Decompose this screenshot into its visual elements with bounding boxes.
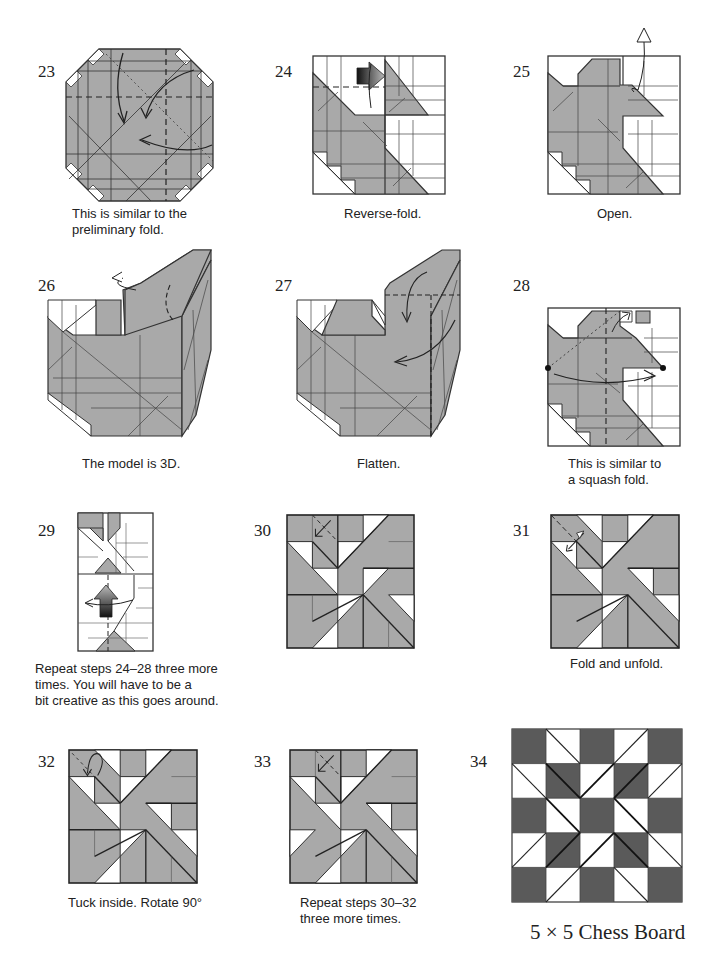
step-33-caption: Repeat steps 30–32 three more times.: [300, 895, 416, 927]
step-30-diagram: [287, 515, 414, 648]
step-number: 24: [275, 62, 292, 82]
step-28-diagram: [548, 308, 680, 446]
step-24-caption: Reverse-fold.: [344, 206, 421, 222]
step-24-diagram: [313, 56, 445, 194]
step-number: 23: [38, 62, 55, 82]
step-28-caption: This is similar to a squash fold.: [568, 456, 661, 488]
step-number: 32: [38, 752, 55, 772]
reference-dot-icon: [545, 365, 551, 371]
chess-board-diagram: [512, 729, 682, 902]
step-number: 33: [254, 752, 271, 772]
step-23-diagram: [66, 49, 213, 201]
step-number: 31: [513, 521, 530, 541]
step-number: 29: [38, 521, 55, 541]
open-arrow-icon: [637, 28, 651, 42]
step-25-caption: Open.: [597, 206, 632, 222]
step-26-diagram: [48, 250, 212, 446]
step-31-diagram: [551, 515, 679, 648]
step-29-caption: Repeat steps 24–28 three more times. You…: [35, 661, 219, 709]
step-33-diagram: [290, 750, 417, 883]
reference-dot-icon: [660, 365, 666, 371]
step-29-diagram: [78, 513, 153, 651]
step-number: 25: [513, 62, 530, 82]
step-23-caption: This is similar to the preliminary fold.: [72, 206, 212, 238]
chess-board-title: 5 × 5 Chess Board: [530, 920, 685, 945]
step-32-caption: Tuck inside. Rotate 90°: [68, 895, 202, 911]
step-number: 30: [254, 521, 271, 541]
step-number: 28: [513, 276, 530, 296]
step-25-diagram: [548, 56, 680, 194]
step-31-caption: Fold and unfold.: [570, 656, 663, 672]
step-number: 34: [470, 752, 487, 772]
step-32-diagram: [69, 750, 197, 883]
step-27-diagram: [297, 250, 461, 446]
step-27-caption: Flatten.: [357, 456, 400, 472]
step-26-caption: The model is 3D.: [82, 456, 180, 472]
step-number: 27: [275, 276, 292, 296]
